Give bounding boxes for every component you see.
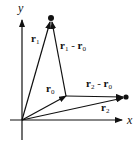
label-op: -: [68, 39, 77, 51]
vector-diagram: y x r1 r1 - r0 r0 r2 - r0 r2: [0, 0, 139, 142]
vector-r2-minus-r0: [66, 96, 123, 97]
label-r2-minus-r0: r2 - r0: [86, 78, 112, 91]
label-op: -: [94, 77, 103, 89]
diagram-graphics: [0, 0, 139, 142]
vector-r0: [22, 96, 66, 120]
label-r1-minus-r0: r1 - r0: [60, 40, 86, 53]
label-r2-sub: 2: [106, 107, 110, 115]
label-sub2: 0: [82, 45, 86, 53]
label-r1-sub: 1: [36, 38, 40, 46]
label-r2: r2: [101, 102, 109, 115]
label-r0: r0: [46, 83, 54, 96]
point-p1: [48, 15, 54, 21]
label-r1: r1: [31, 33, 39, 46]
label-r0-sub: 0: [51, 88, 55, 96]
point-p2: [123, 94, 128, 99]
y-axis-label: y: [18, 2, 23, 14]
label-sub2: 0: [108, 83, 112, 91]
x-axis-label: x: [127, 114, 132, 126]
